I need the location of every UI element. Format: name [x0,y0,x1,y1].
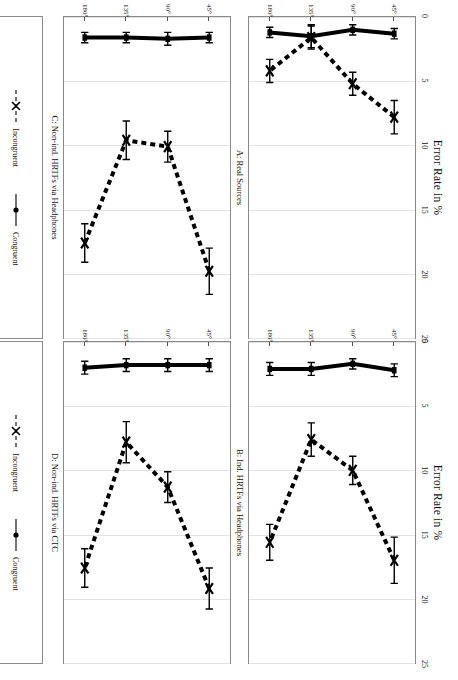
panel-grid-bottom: 45°90°135°180° C: Non-ind. HRTFs via Hea… [46,16,231,664]
data-point-congruent [124,34,129,40]
plot-area-a: 45°90°135°180° [249,17,415,338]
incongruent-key-icon [10,89,22,123]
series-layer-b [249,342,415,663]
category-tick-label: 90° [164,4,172,14]
plot-panel-d: 45°90°135°180° [63,341,231,664]
category-tick-label: 45° [205,4,213,14]
value-tick-label: 0 [420,339,429,343]
plot-panel-c: 45°90°135°180° [63,16,231,339]
plot-area-b: 45°90°135°180° [249,342,415,663]
series-layer-a [249,17,415,338]
category-tick-label: 180° [81,4,89,17]
category-tick-label: 45° [205,329,213,339]
gridline [64,663,230,664]
category-tick-label: 135° [307,4,315,17]
incongruent-key-icon [10,414,22,448]
data-point-congruent [207,34,212,40]
category-tick-label: 135° [122,329,130,342]
panel-grid-top: Error Rate in % 0510152025 45°90°135°180… [231,16,444,664]
value-tick-row-b: 0510152025 [416,341,429,664]
data-point-congruent [165,362,170,368]
category-tick-label: 90° [349,4,357,14]
series-line-congruent [85,365,210,368]
data-point-congruent [82,34,87,40]
value-tick-label: 15 [420,531,429,539]
legend-entry-congruent-left: Congruent [10,193,22,266]
panel-caption-c: C: Non-ind. HRTFs via Headphones [50,16,60,339]
data-point-congruent [350,27,355,33]
legend-label-incongruent-right: Incongruent [12,453,21,492]
data-point-congruent [267,29,272,35]
series-line-congruent [85,38,210,39]
value-tick-label: 20 [420,270,429,278]
panel-column-a: Error Rate in % 0510152025 45°90°135°180… [233,16,444,339]
category-tick-label: 135° [122,4,130,17]
legend-left: Incongruent Congruent [0,16,43,339]
series-layer-d [64,342,230,663]
data-point-congruent [392,367,397,373]
plot-panel-b: 45°90°135°180° [248,341,416,664]
plot-panel-a: 45°90°135°180° [248,16,416,339]
category-tick-label: 90° [349,329,357,339]
value-tick-label: 15 [420,206,429,214]
series-layer-c [64,17,230,338]
figure-page: Error Rate in % 0510152025 45°90°135°180… [0,0,458,680]
congruent-key-icon [10,193,22,227]
data-point-congruent [165,36,170,42]
value-tick-label: 5 [420,79,429,83]
data-point-congruent [392,30,397,36]
value-tick-label: 10 [420,141,429,149]
value-tick-label: 25 [420,660,429,668]
panel-column-c: 45°90°135°180° C: Non-ind. HRTFs via Hea… [48,16,231,339]
legend-entry-incongruent-left: Incongruent [10,89,22,167]
category-tick-label: 45° [390,4,398,14]
value-axis-title-left-top: Error Rate in % [432,16,444,339]
value-tick-label: 5 [420,404,429,408]
value-tick-label: 20 [420,595,429,603]
category-tick-label: 180° [81,329,89,342]
data-point-congruent [309,366,314,372]
legend-right: Incongruent Congruent [0,341,43,664]
figure-body: Error Rate in % 0510152025 45°90°135°180… [0,16,444,664]
legend-label-incongruent-left: Incongruent [12,128,21,167]
series-line-incongruent [270,440,395,561]
legend-entry-congruent-right: Congruent [10,518,22,591]
data-point-congruent [124,362,129,368]
panel-caption-d: D: Non-ind. HRTFs via CTC [50,341,60,664]
congruent-key-icon [10,518,22,552]
category-tick-label: 135° [307,329,315,342]
category-tick-label: 180° [266,329,274,342]
category-tick-label: 45° [390,329,398,339]
legend-entry-incongruent-right: Incongruent [10,414,22,492]
panel-column-b: Error Rate in % 0510152025 45°90°135°180… [233,341,444,664]
data-point-congruent [82,364,87,370]
series-line-congruent [270,30,395,36]
series-line-congruent [270,364,395,370]
data-point-congruent [207,362,212,368]
legend-row: Incongruent Congruent Incongruent [0,16,43,664]
legend-label-congruent-right: Congruent [12,557,21,591]
series-line-incongruent [85,442,210,588]
data-point-congruent [267,366,272,372]
value-tick-label: 0 [420,14,429,18]
category-tick-label: 180° [266,4,274,17]
value-axis-title-right-top: Error Rate in % [432,341,444,664]
value-tick-row-a: 0510152025 [416,16,429,339]
series-line-incongruent [85,140,210,271]
data-point-congruent [350,361,355,367]
plot-area-c: 45°90°135°180° [64,17,230,338]
panel-column-d: 45°90°135°180° D: Non-ind. HRTFs via CTC [48,341,231,664]
panel-caption-b: B: Ind. HRTFs via Headphones [235,341,245,664]
panel-caption-a: A: Real Sources [235,16,245,339]
gridline [249,663,415,664]
plot-area-d: 45°90°135°180° [64,342,230,663]
value-tick-label: 10 [420,466,429,474]
category-tick-label: 90° [164,329,172,339]
rotated-page-wrapper: Error Rate in % 0510152025 45°90°135°180… [0,0,458,680]
legend-label-congruent-left: Congruent [12,232,21,266]
series-line-incongruent [270,38,395,118]
